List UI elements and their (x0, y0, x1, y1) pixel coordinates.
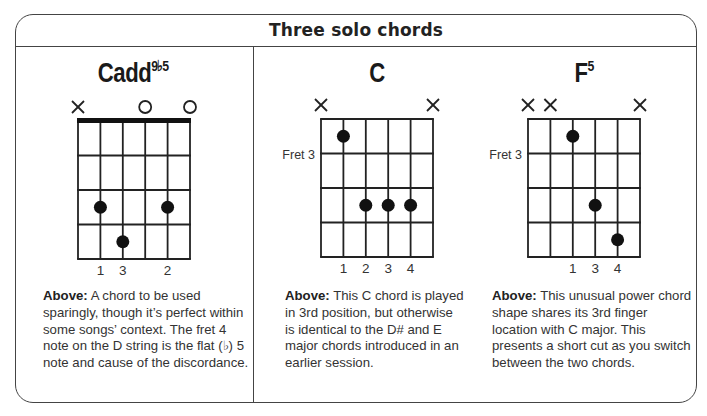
finger-number: 1 (569, 261, 577, 276)
finger-dot (566, 130, 579, 143)
muted-string-icon (634, 99, 646, 111)
finger-number: 3 (591, 261, 599, 276)
fret-position-label: Fret 3 (489, 148, 522, 162)
finger-number: 4 (614, 261, 622, 276)
muted-string-icon (522, 99, 534, 111)
finger-dot (611, 233, 624, 246)
caption-f5: Above: This unusual power chord shape sh… (492, 288, 692, 372)
muted-string-icon (544, 99, 556, 111)
finger-dot (589, 199, 602, 212)
caption-lead: Above: (492, 288, 537, 303)
